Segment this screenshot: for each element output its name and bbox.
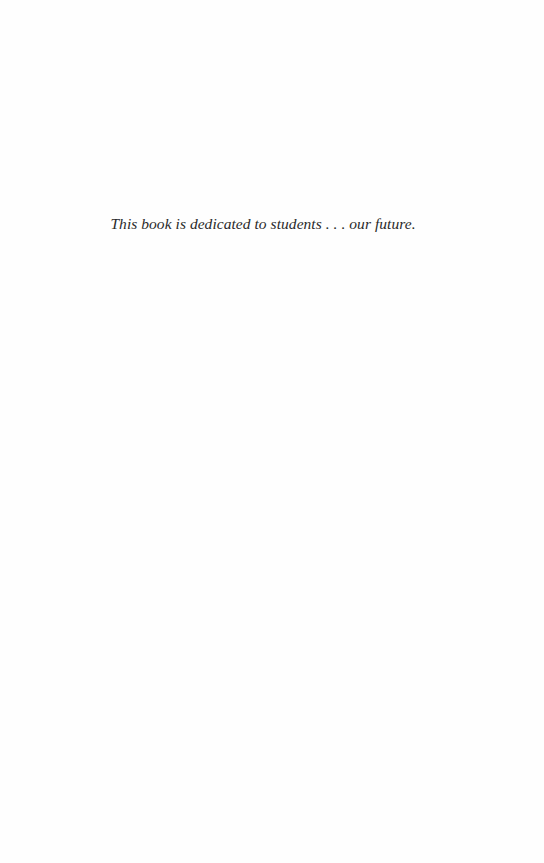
dedication-text: This book is dedicated to students . . .… (0, 214, 526, 234)
book-page: This book is dedicated to students . . .… (0, 0, 544, 863)
